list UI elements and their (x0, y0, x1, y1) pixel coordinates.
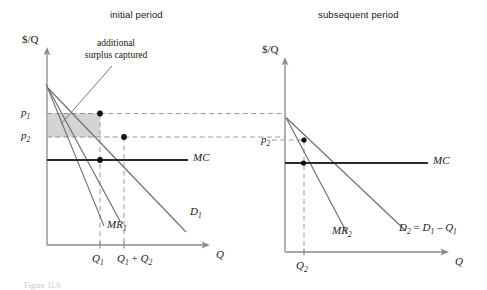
d1-subscript: 1 (198, 211, 202, 220)
quantity-tick-q1-label: Q1 (92, 253, 104, 264)
marginal-revenue-curve-mr1 (48, 88, 120, 221)
annotation-line-2: surplus captured (85, 50, 148, 60)
mr2-subscript: 2 (348, 230, 352, 239)
x-axis-label-initial: Q (216, 249, 224, 260)
point-p1-on-d1 (97, 111, 103, 117)
price-tick-p2-label: p2 (21, 130, 30, 141)
mc-label-initial-text: MC (193, 151, 210, 163)
point-p2-on-d2 (301, 137, 306, 142)
figure-caption-fragment: Figure 11.6 (24, 281, 61, 290)
q1-sum-subscript: 1 (125, 258, 129, 267)
d1-symbol: D (190, 205, 198, 217)
d2-eq-q1-subscript: 1 (453, 227, 457, 236)
mc-label-initial: MC (193, 152, 210, 163)
annotation-line-1: additional (97, 38, 135, 48)
y-axis-label-subsequent: $/Q (262, 44, 279, 55)
p1-subscript: 1 (27, 112, 31, 121)
point-mr1-equals-mc (97, 157, 103, 163)
q2-right-subscript: 2 (304, 265, 308, 274)
y-axis-label-subsequent-text: $/Q (262, 43, 279, 55)
d2-minus-sign: – (434, 221, 445, 233)
d2-subscript: 2 (407, 227, 411, 236)
p2-right-subscript: 2 (267, 139, 271, 148)
mr1-subscript: 1 (123, 224, 127, 233)
p2-symbol: p (21, 129, 27, 141)
d2-symbol: D (399, 221, 407, 233)
p2-right-symbol: p (261, 133, 267, 145)
q-sum-operator: + (129, 252, 141, 264)
mr2-symbol: MR (332, 224, 348, 236)
x-axis-label-initial-text: Q (216, 248, 224, 260)
price-tick-p2-label-right: p2 (261, 134, 270, 145)
d2-eq-d1-subscript: 1 (430, 227, 434, 236)
mc-label-subsequent-text: MC (433, 154, 450, 166)
marginal-revenue-label-mr1: MR1 (107, 219, 127, 230)
x-axis-label-subsequent-text: Q (455, 255, 463, 267)
price-tick-p1-label: p1 (21, 107, 30, 118)
panel-title-initial: initial period (110, 10, 163, 20)
q1-sum-symbol: Q (117, 252, 125, 264)
point-mr2-equals-mc (301, 160, 306, 165)
p1-symbol: p (21, 106, 27, 118)
y-axis-label-initial-text: $/Q (22, 33, 39, 45)
marginal-revenue-curve-mr2 (286, 118, 347, 234)
mr1-symbol: MR (107, 218, 123, 230)
marginal-revenue-label-mr2: MR2 (332, 225, 352, 236)
point-p2-on-d1 (121, 134, 127, 140)
q2-sum-subscript: 2 (148, 258, 152, 267)
panel-title-subsequent: subsequent period (318, 10, 399, 20)
q1-symbol: Q (92, 252, 100, 264)
d2-equals-sign: = (411, 221, 423, 233)
quantity-tick-q2-label: Q2 (296, 260, 308, 271)
panel-initial-period (44, 47, 286, 249)
surplus-boundary-line (46, 84, 104, 226)
d2-eq-q1-symbol: Q (445, 221, 453, 233)
y-axis-label-initial: $/Q (22, 34, 39, 45)
mc-label-subsequent: MC (433, 155, 450, 166)
p2-subscript: 2 (27, 135, 31, 144)
demand-label-d1: D1 (190, 206, 202, 217)
demand-label-d2-equation: D2 = D1 – Q1 (399, 222, 457, 233)
quantity-tick-q1-plus-q2-label: Q1 + Q2 (117, 253, 152, 264)
q1-subscript: 1 (100, 258, 104, 267)
q2-right-symbol: Q (296, 259, 304, 271)
additional-surplus-annotation: additional surplus captured (63, 38, 169, 61)
x-axis-label-subsequent: Q (455, 256, 463, 267)
